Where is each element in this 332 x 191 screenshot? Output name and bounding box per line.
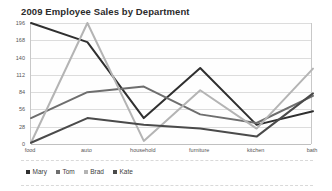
x-axis: foodautohouseholdfurniturekitchenbath (30, 147, 312, 159)
x-axis-tick-label: auto (81, 147, 92, 153)
legend-swatch-icon (56, 170, 60, 174)
y-axis-tick-label: 84 (19, 89, 25, 95)
series-line-mary (31, 23, 313, 125)
legend-item-label: Tom (62, 168, 74, 175)
legend-item-brad[interactable]: Brad (84, 168, 104, 175)
legend-item-tom[interactable]: Tom (56, 168, 75, 175)
chart-legend: MaryTomBradKate (26, 168, 133, 175)
y-axis-tick-label: 28 (19, 124, 25, 130)
x-axis-tick-label: household (130, 147, 155, 153)
x-axis-tick-label: food (25, 147, 36, 153)
series-lines (31, 23, 313, 144)
legend-item-kate[interactable]: Kate (113, 168, 133, 175)
legend-divider-bottom (21, 185, 313, 186)
legend-item-mary[interactable]: Mary (26, 168, 47, 175)
plot-area (30, 23, 312, 144)
y-axis-tick-label: 140 (16, 55, 25, 61)
y-axis-tick-label: 168 (16, 37, 25, 43)
chart-container: 2009 Employee Sales by Department 028568… (0, 0, 332, 191)
y-axis-tick-label: 196 (16, 20, 25, 26)
legend-divider-top (21, 160, 313, 161)
y-axis-tick-label: 56 (19, 106, 25, 112)
x-axis-tick-label: furniture (189, 147, 209, 153)
y-axis-tick-label: 112 (16, 72, 25, 78)
legend-swatch-icon (84, 170, 88, 174)
legend-swatch-icon (26, 170, 30, 174)
x-axis-tick-label: kitchen (247, 147, 264, 153)
legend-item-label: Kate (119, 168, 132, 175)
chart-title: 2009 Employee Sales by Department (21, 6, 190, 17)
legend-item-label: Mary (33, 168, 47, 175)
y-axis: 0285684112140168196 (0, 23, 28, 144)
x-axis-tick-label: bath (307, 147, 318, 153)
legend-item-label: Brad (90, 168, 104, 175)
gridline (31, 144, 311, 145)
legend-swatch-icon (113, 170, 117, 174)
